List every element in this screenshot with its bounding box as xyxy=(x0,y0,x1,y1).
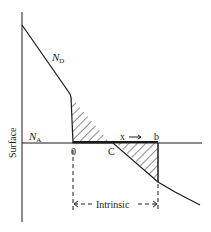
surface-label: Surface xyxy=(7,127,18,158)
origin-label: 0 xyxy=(71,146,76,157)
crossing-label-c: C xyxy=(108,146,115,157)
diagram-canvas: Surface ND NA 0 C b x Intrinsic xyxy=(0,0,211,232)
x-label: x xyxy=(120,131,125,142)
intrinsic-label: Intrinsic xyxy=(96,199,130,210)
donor-label: ND xyxy=(51,51,64,65)
end-label-b: b xyxy=(154,131,159,142)
hatched-region-left xyxy=(71,97,110,143)
donor-profile-curve xyxy=(22,25,200,205)
acceptor-label: NA xyxy=(28,130,41,144)
